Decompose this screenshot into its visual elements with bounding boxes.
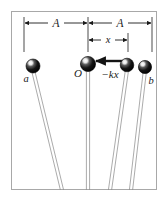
bob-a <box>26 59 40 73</box>
displacement-label: x <box>105 34 111 45</box>
bob-o <box>80 56 95 71</box>
origin-label: O <box>74 67 82 79</box>
amplitude-left-label: A <box>51 17 60 29</box>
bob-x <box>120 58 134 72</box>
bob-b <box>138 60 151 73</box>
amplitude-right-label: A <box>115 17 124 29</box>
figure-frame <box>12 12 157 190</box>
pendulum-diagram: A A x <box>0 0 166 203</box>
bob-left-label: a <box>23 73 28 84</box>
bob-right-label: b <box>148 75 153 86</box>
physics-figure: A A x <box>0 0 166 203</box>
force-label: −kx <box>101 68 118 80</box>
